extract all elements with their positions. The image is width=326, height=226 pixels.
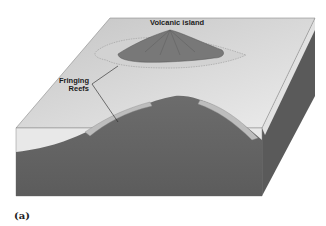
fringing-reef-block-diagram [0, 0, 326, 226]
volcanic-island-label: Volcanic island [150, 19, 204, 27]
fringing-reefs-label: Fringing Reefs [55, 77, 89, 93]
figure-caption: (a) [14, 210, 30, 221]
fringing-reefs-label-line2: Reefs [55, 85, 89, 93]
